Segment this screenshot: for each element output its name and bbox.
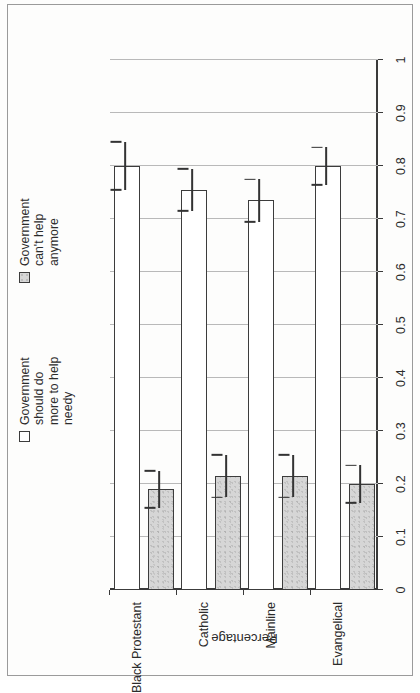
value-gridline (110, 59, 378, 60)
error-bar-cap (278, 496, 289, 498)
value-axis-tick-label: 0.7 (394, 210, 408, 228)
error-bar (158, 471, 160, 508)
plot-area: 00.10.20.30.40.50.60.70.80.91Evangelical… (110, 60, 378, 590)
category-label: Mainline (264, 602, 278, 649)
error-bar (325, 147, 327, 184)
bar (315, 166, 341, 590)
error-bar-cap (244, 178, 255, 180)
category-label: Black Protestant (130, 602, 144, 693)
value-axis-tick (378, 218, 383, 219)
legend-swatch-gray-square (19, 272, 30, 283)
error-bar-cap (311, 147, 322, 149)
category-label: Evangelical (331, 602, 345, 666)
value-axis-tick (378, 430, 383, 431)
value-axis-tick (378, 377, 383, 378)
value-axis-tick-label: 0 (394, 586, 408, 593)
legend-label: Government should do more to help needy (18, 317, 76, 425)
value-axis-tick (378, 112, 383, 113)
value-axis-tick-label: 0.2 (394, 475, 408, 493)
category-axis-tick (176, 590, 177, 595)
value-axis-tick-label: 1 (394, 56, 408, 63)
error-bar (292, 455, 294, 497)
error-bar-cap (244, 221, 255, 223)
value-axis-tick (378, 271, 383, 272)
bar (248, 200, 274, 590)
bar (181, 190, 207, 590)
bar (349, 484, 375, 590)
legend-label: Government can't help anymore (18, 158, 61, 266)
value-axis-line (376, 60, 378, 590)
error-bar-cap (110, 189, 121, 191)
chart-figure: Government should do more to help needyG… (14, 16, 406, 664)
value-axis-tick (378, 165, 383, 166)
value-gridline (110, 112, 378, 113)
value-axis-tick-label: 0.1 (394, 528, 408, 546)
error-bar-cap (311, 184, 322, 186)
value-axis-tick (378, 483, 383, 484)
bar (215, 476, 241, 590)
value-axis-tick-label: 0.9 (394, 104, 408, 122)
error-bar (191, 169, 193, 211)
error-bar (258, 179, 260, 221)
value-axis-tick (378, 59, 383, 60)
chart-legend: Government should do more to help needyG… (18, 102, 76, 442)
value-axis-tick (378, 324, 383, 325)
category-label: Catholic (197, 602, 211, 647)
value-axis-tick (378, 536, 383, 537)
legend-entry: Government can't help anymore (18, 158, 61, 283)
error-bar-cap (144, 507, 155, 509)
error-bar (225, 455, 227, 497)
value-axis-tick-label: 0.5 (394, 316, 408, 334)
value-axis-tick-label: 0.8 (394, 157, 408, 175)
legend-swatch-white-square (19, 431, 30, 442)
error-bar-cap (177, 168, 188, 170)
category-axis-tick (310, 590, 311, 595)
error-bar-cap (177, 210, 188, 212)
category-axis-tick (243, 590, 244, 595)
bar (148, 489, 174, 590)
value-axis-tick-label: 0.3 (394, 422, 408, 440)
error-bar-cap (211, 496, 222, 498)
legend-entry: Government should do more to help needy (18, 317, 76, 442)
bar (114, 166, 140, 590)
error-bar-cap (278, 454, 289, 456)
category-axis-tick (109, 590, 110, 595)
error-bar-cap (345, 502, 356, 504)
value-axis-tick-label: 0.6 (394, 263, 408, 281)
value-axis-tick-label: 0.4 (394, 369, 408, 387)
error-bar-cap (144, 470, 155, 472)
bar (282, 476, 308, 590)
error-bar-cap (345, 465, 356, 467)
error-bar-cap (211, 454, 222, 456)
error-bar (359, 465, 361, 502)
error-bar-cap (110, 141, 121, 143)
value-axis-tick (378, 589, 383, 590)
error-bar (124, 142, 126, 190)
